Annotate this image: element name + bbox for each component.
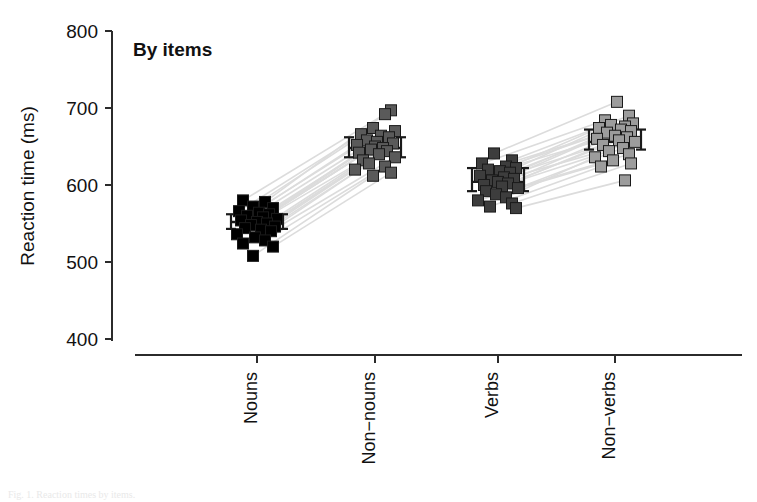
data-point-marker [608,155,619,166]
x-tick-label-nouns: Nouns [241,372,261,424]
data-point-marker [485,201,496,212]
y-tick-label-800: 800 [66,21,98,42]
data-point-marker [491,189,502,200]
reaction-time-scatter-chart: 800 700 600 500 400 Reaction time (ms) N… [0,0,757,502]
y-tick-label-500: 500 [66,252,98,273]
figure-container: 800 700 600 500 400 Reaction time (ms) N… [0,0,757,502]
data-point-marker [350,164,361,175]
page-title: By items [133,39,212,60]
data-point-marker [511,203,522,214]
data-point-marker [380,109,391,120]
data-point-marker [238,195,249,206]
data-point-marker [238,238,249,249]
data-point-marker [390,152,401,163]
data-point-marker [374,149,385,160]
figure-caption: Fig. 1. Reaction times by items. [8,489,135,500]
data-point-marker [513,183,524,194]
data-point-marker [626,158,637,169]
data-point-marker [612,96,623,107]
y-tick-label-400: 400 [66,329,98,350]
y-axis-title: Reaction time (ms) [17,106,38,265]
data-point-marker [630,136,641,147]
y-tick-label-600: 600 [66,175,98,196]
y-tick-label-700: 700 [66,98,98,119]
x-tick-label-non-nouns: Non−nouns [359,372,379,465]
data-point-marker [268,241,279,252]
data-point-marker [250,232,261,243]
data-point-marker [386,167,397,178]
data-point-marker [364,158,375,169]
data-point-marker [473,195,484,206]
data-point-marker [248,250,259,261]
data-point-marker [368,170,379,181]
data-point-marker [596,161,607,172]
x-tick-label-verbs: Verbs [482,372,502,418]
data-point-marker [620,175,631,186]
data-point-marker [489,148,500,159]
x-tick-label-non-verbs: Non−verbs [599,372,619,460]
